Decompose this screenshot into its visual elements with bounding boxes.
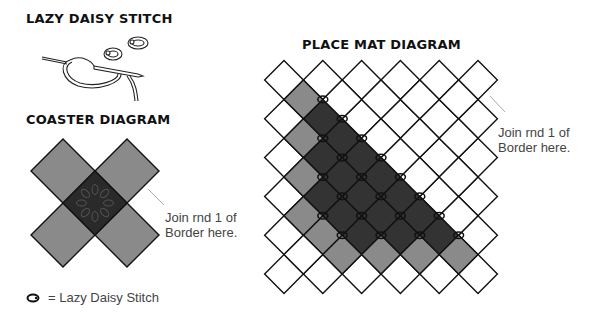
- lazy-daisy-stitch-icon: [26, 293, 40, 303]
- place-mat-diagram: [0, 0, 590, 329]
- place-mat-join-leader-line: [490, 96, 505, 112]
- legend: = Lazy Daisy Stitch: [26, 290, 159, 305]
- legend-label: = Lazy Daisy Stitch: [48, 290, 159, 305]
- place-mat-join-note: Join rnd 1 of Border here.: [498, 125, 570, 155]
- place-mat-join-note-line1: Join rnd 1 of: [498, 125, 570, 140]
- place-mat-join-note-line2: Border here.: [498, 140, 570, 155]
